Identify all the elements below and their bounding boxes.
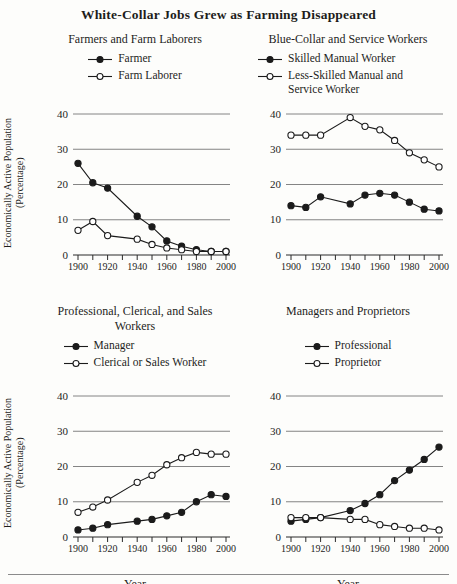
x-tick-labels: 190019201940196019802000 <box>281 543 449 554</box>
data-point <box>208 248 214 254</box>
y-tick-label: 10 <box>270 213 282 225</box>
legend: ManagerClerical or Sales Worker <box>64 339 207 372</box>
data-point <box>149 472 155 478</box>
data-point <box>406 199 412 205</box>
y-axis-label-column-bottom: Economically Active Population (Percenta… <box>2 304 32 584</box>
data-point <box>377 190 383 196</box>
chart-header: Farmers and Farm LaborersFarmerFarm Labo… <box>32 32 238 106</box>
y-tick-labels: 010203040 <box>57 108 69 261</box>
plot-area: 010203040190019201940196019802000 <box>245 106 451 286</box>
data-point <box>223 248 229 254</box>
x-tick-label: 1980 <box>186 543 206 554</box>
data-point <box>303 132 309 138</box>
y-tick-label: 0 <box>63 531 69 543</box>
y-tick-label: 30 <box>57 425 69 437</box>
data-point <box>303 515 309 521</box>
y-tick-label: 0 <box>63 249 69 261</box>
x-tick-label: 1980 <box>399 543 419 554</box>
data-point <box>208 492 214 498</box>
plot-area: 010203040190019201940196019802000 <box>32 388 238 568</box>
legend-label: Professional <box>335 339 392 353</box>
chart-header: Blue-Collar and Service WorkersSkilled M… <box>245 32 451 106</box>
data-point <box>223 451 229 457</box>
y-tick-labels: 010203040 <box>270 390 282 543</box>
data-point <box>105 522 111 528</box>
legend-label: Skilled Manual Worker <box>288 52 395 66</box>
y-axis-label-bottom: Economically Active Population (Percenta… <box>2 384 32 542</box>
data-point <box>406 525 412 531</box>
plot-area: 010203040190019201940196019802000 <box>245 388 451 568</box>
data-point <box>288 132 294 138</box>
data-point <box>164 513 170 519</box>
y-tick-label: 40 <box>57 108 69 120</box>
data-point <box>421 525 427 531</box>
chart-title: Professional, Clerical, and Sales Worker… <box>48 304 223 334</box>
data-point <box>164 238 170 244</box>
x-tick-label: 1960 <box>370 261 390 272</box>
y-tick-label: 40 <box>270 390 282 402</box>
x-tick-label: 2000 <box>216 261 236 272</box>
data-point <box>347 114 353 120</box>
data-point <box>75 527 81 533</box>
y-tick-label: 30 <box>270 425 282 437</box>
x-tick-label: 1960 <box>157 543 177 554</box>
data-point <box>193 449 199 455</box>
x-tick-label: 1960 <box>370 543 390 554</box>
x-tick-label: 1900 <box>68 543 88 554</box>
data-point <box>318 194 324 200</box>
data-point <box>421 157 427 163</box>
data-point <box>149 224 155 230</box>
data-point <box>406 467 412 473</box>
x-tick-label: 2000 <box>216 543 236 554</box>
open-circle-marker-icon <box>64 358 88 372</box>
figure: White-Collar Jobs Grew as Farming Disapp… <box>0 7 457 584</box>
legend-label: Farm Laborer <box>118 69 182 83</box>
data-point <box>179 509 185 515</box>
data-point <box>362 516 368 522</box>
x-tick-label: 1940 <box>127 543 147 554</box>
y-tick-label: 20 <box>57 460 69 472</box>
data-point <box>392 192 398 198</box>
y-axis-label-column-top: Economically Active Population (Percenta… <box>2 32 32 290</box>
data-point <box>134 213 140 219</box>
x-tick-label: 1980 <box>186 261 206 272</box>
chart-professional-clerical-sales-workers: Professional, Clerical, and Sales Worker… <box>32 304 238 584</box>
x-tick-labels: 190019201940196019802000 <box>68 261 236 272</box>
data-point <box>208 451 214 457</box>
x-ticks <box>291 255 439 260</box>
x-axis-label: Year <box>32 577 238 584</box>
data-point <box>90 525 96 531</box>
legend-item: Proprietor <box>305 356 392 372</box>
series-filled-markers <box>288 190 442 214</box>
x-ticks <box>291 537 439 542</box>
legend-label: Farmer <box>118 52 151 66</box>
y-axis-label-line2: (Percentage) <box>14 384 26 542</box>
series-filled-markers <box>288 444 442 524</box>
data-point <box>193 499 199 505</box>
x-tick-label: 1920 <box>98 543 118 554</box>
x-tick-label: 2000 <box>429 543 449 554</box>
legend-item: Clerical or Sales Worker <box>64 356 207 372</box>
data-point <box>362 123 368 129</box>
plot-area: 010203040190019201940196019802000 <box>32 106 238 286</box>
data-point <box>347 507 353 513</box>
y-axis-label-line1: Economically Active Population <box>2 104 14 262</box>
open-circle-marker-icon <box>88 71 112 85</box>
chart-blue-collar-and-service-workers: Blue-Collar and Service WorkersSkilled M… <box>245 32 451 290</box>
legend-item: Skilled Manual Worker <box>258 52 438 68</box>
x-tick-label: 1960 <box>157 261 177 272</box>
data-point <box>392 478 398 484</box>
y-tick-label: 30 <box>57 143 69 155</box>
data-point <box>406 150 412 156</box>
x-tick-label: 1900 <box>68 261 88 272</box>
data-point <box>377 492 383 498</box>
open-circle-marker-icon <box>305 358 329 372</box>
series-line <box>291 447 439 521</box>
legend: Skilled Manual WorkerLess-Skilled Manual… <box>258 52 438 96</box>
data-point <box>164 245 170 251</box>
chart-managers-and-proprietors: Managers and ProprietorsProfessionalProp… <box>245 304 451 584</box>
data-point <box>421 206 427 212</box>
data-point <box>75 227 81 233</box>
chart-title: Managers and Proprietors <box>261 304 436 334</box>
data-point <box>377 522 383 528</box>
